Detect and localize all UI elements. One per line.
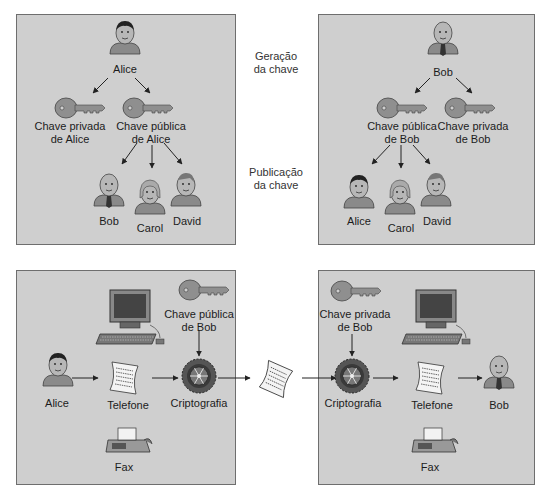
carol-recipient-label-2: Carol <box>388 222 414 235</box>
label-line: Chave pública <box>367 120 437 133</box>
bob-label: Bob <box>433 66 453 79</box>
alice-recipient-label: Alice <box>347 215 371 228</box>
bob-private-key-label: Chave privada de Bob <box>438 120 509 146</box>
encrypted-document-icon <box>258 360 293 398</box>
bob-public-key-label-2: Chave pública de Bob <box>164 308 234 334</box>
label-line: de Alice <box>35 133 106 146</box>
telephone-label: Telefone <box>107 399 149 412</box>
carol-recipient-label: Carol <box>137 222 163 235</box>
label-line: de Bob <box>367 133 437 146</box>
label-line: de Bob <box>438 133 509 146</box>
bob-recipient-label: Bob <box>99 215 119 228</box>
key-publication-line1: Publicação <box>249 166 303 179</box>
panel-encryption-alice <box>16 270 236 485</box>
label-line: de Bob <box>320 321 391 334</box>
label-line: Chave privada <box>438 120 509 133</box>
key-publication-label: Publicação da chave <box>249 166 303 192</box>
key-generation-label: Geração da chave <box>254 50 299 76</box>
label-line: Chave privada <box>35 120 106 133</box>
alice-label: Alice <box>113 63 137 76</box>
decryption-label: Criptografia <box>325 397 382 410</box>
key-generation-line2: da chave <box>254 63 299 76</box>
alice-public-key-label: Chave pública de Alice <box>116 120 186 146</box>
david-recipient-label: David <box>173 215 201 228</box>
label-line: de Alice <box>116 133 186 146</box>
key-generation-line1: Geração <box>254 50 299 63</box>
encryption-label: Criptografia <box>171 397 228 410</box>
bob-receiver-label: Bob <box>489 399 509 412</box>
label-line: de Bob <box>164 321 234 334</box>
alice-private-key-label: Chave privada de Alice <box>35 120 106 146</box>
bob-public-key-label: Chave pública de Bob <box>367 120 437 146</box>
telephone-label-2: Telefone <box>411 399 453 412</box>
label-line: Chave pública <box>164 308 234 321</box>
label-line: Chave pública <box>116 120 186 133</box>
alice-sender-label: Alice <box>45 397 69 410</box>
david-recipient-label-2: David <box>423 215 451 228</box>
panel-decryption-bob <box>318 270 535 485</box>
bob-private-key-label-2: Chave privada de Bob <box>320 308 391 334</box>
key-publication-line2: da chave <box>249 179 303 192</box>
fax-label-2: Fax <box>421 461 439 474</box>
label-line: Chave privada <box>320 308 391 321</box>
fax-label: Fax <box>115 461 133 474</box>
